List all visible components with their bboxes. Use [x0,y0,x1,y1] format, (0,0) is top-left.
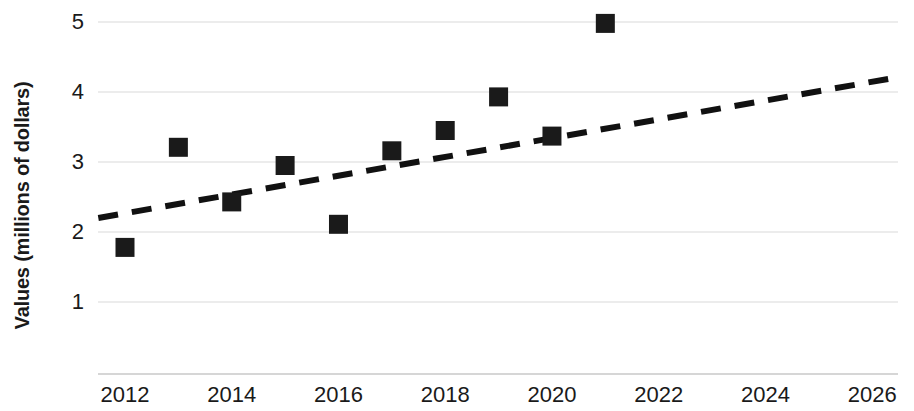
data-point-marker [436,121,455,140]
x-axis-tick-label: 2024 [741,382,790,408]
data-point-marker [222,192,241,211]
x-axis-tick-label: 2014 [207,382,256,408]
data-point-marker [169,138,188,157]
x-axis-tick-label: 2020 [527,382,576,408]
data-markers-group [116,14,615,257]
data-point-marker [542,127,561,146]
x-axis-tick-label: 2026 [848,382,897,408]
y-axis-tick-label: 4 [50,79,84,105]
gridlines-group [98,22,898,302]
plot-area [0,0,914,411]
x-axis-tick-label: 2018 [421,382,470,408]
data-point-marker [329,215,348,234]
x-axis-tick-label: 2012 [101,382,150,408]
y-axis-tick-label: 2 [50,219,84,245]
data-point-marker [382,141,401,160]
scatter-chart: Values (millions of dollars) 12345 20122… [0,0,914,411]
y-axis-tick-label: 3 [50,149,84,175]
data-point-marker [489,87,508,106]
y-axis-tick-label: 1 [50,289,84,315]
data-point-marker [596,14,615,33]
y-axis-tick-label: 5 [50,9,84,35]
data-point-marker [276,156,295,175]
x-axis-tick-label: 2022 [634,382,683,408]
data-point-marker [116,238,135,257]
x-axis-tick-label: 2016 [314,382,363,408]
